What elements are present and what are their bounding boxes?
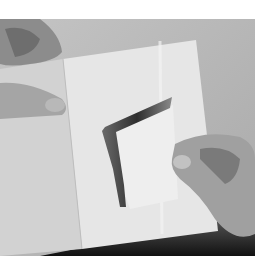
photo-illustration bbox=[0, 19, 255, 256]
photo bbox=[0, 19, 255, 256]
